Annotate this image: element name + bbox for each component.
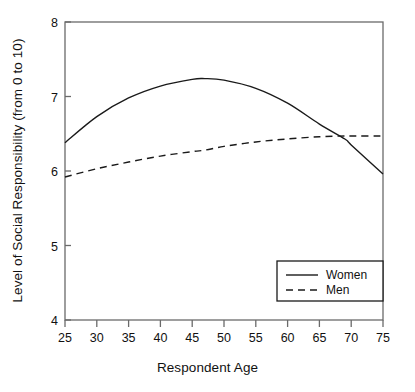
y-axis-tick-labels: 8 7 6 5 4 <box>51 16 58 328</box>
y-tick-label-5: 5 <box>51 240 58 254</box>
x-tick-label-45: 45 <box>185 331 199 345</box>
x-tick-label-65: 65 <box>312 331 326 345</box>
y-tick-label-6: 6 <box>51 165 58 179</box>
x-tick-label-55: 55 <box>249 331 263 345</box>
series-line-women <box>65 78 383 174</box>
x-axis-title: Respondent Age <box>0 360 415 375</box>
x-tick-label-70: 70 <box>344 331 358 345</box>
legend: Women Men <box>277 261 383 301</box>
x-tick-label-60: 60 <box>281 331 295 345</box>
x-tick-label-50: 50 <box>217 331 231 345</box>
x-tick-label-40: 40 <box>153 331 167 345</box>
x-axis-ticks <box>65 320 383 327</box>
chart-figure: Level of Social Responsibility (from 0 t… <box>0 0 415 392</box>
x-tick-label-25: 25 <box>58 331 72 345</box>
x-tick-label-30: 30 <box>90 331 104 345</box>
series-line-men <box>65 136 383 177</box>
legend-label-men: Men <box>326 283 349 297</box>
y-axis-ticks <box>65 22 71 320</box>
plot-area: 8 7 6 5 4 25 30 35 40 45 50 <box>0 0 415 392</box>
x-tick-label-35: 35 <box>122 331 136 345</box>
x-axis-tick-labels: 25 30 35 40 45 50 55 60 65 70 75 <box>58 331 390 345</box>
legend-label-women: Women <box>326 268 367 282</box>
y-tick-label-4: 4 <box>51 314 58 328</box>
y-tick-label-7: 7 <box>51 91 58 105</box>
y-tick-label-8: 8 <box>51 16 58 30</box>
x-tick-label-75: 75 <box>376 331 390 345</box>
